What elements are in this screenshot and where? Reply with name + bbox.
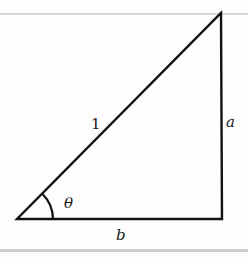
angle-theta-label: θ: [64, 194, 73, 212]
diagram-canvas: 1 a b θ: [0, 0, 248, 263]
angle-arc: [43, 194, 54, 219]
side-b-label: b: [116, 226, 126, 244]
hypotenuse-label: 1: [91, 115, 101, 133]
side-a-label: a: [226, 113, 235, 131]
top-rule: [0, 13, 248, 15]
bottom-rule: [0, 249, 248, 252]
right-triangle: [17, 13, 222, 219]
triangle-diagram: 1 a b θ: [0, 0, 248, 263]
